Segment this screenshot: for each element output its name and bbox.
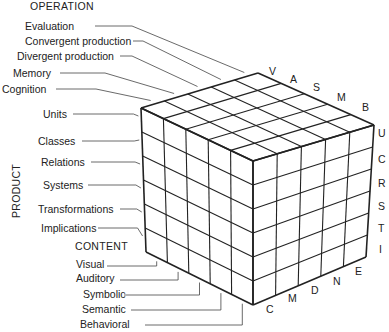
content-letter-m: M [288, 292, 297, 304]
product-letter-r: R [378, 177, 386, 189]
operation-label-memory: Memory [13, 67, 52, 79]
operation-letter-b: B [362, 101, 369, 113]
operation-label-evaluation: Evaluation [25, 20, 74, 32]
operation-letter-a: A [290, 73, 297, 85]
cube-figure: OPERATION Evaluation Convergent producti… [0, 0, 389, 332]
content-letter-e: E [355, 265, 362, 277]
cube [141, 73, 374, 305]
product-label-classes: Classes [38, 135, 75, 147]
product-letter-t: T [378, 222, 385, 234]
product-label-implications: Implications [41, 222, 96, 234]
content-letter-d: D [311, 284, 319, 296]
content-title: CONTENT [75, 240, 128, 252]
product-label-units: Units [43, 108, 67, 120]
operation-letter-m: M [337, 91, 346, 103]
product-letter-s: S [378, 200, 385, 212]
product-letter-c: C [378, 153, 386, 165]
content-letter-c: C [266, 303, 274, 315]
soi-cube-diagram: OPERATION Evaluation Convergent producti… [0, 0, 389, 332]
product-label-relations: Relations [41, 156, 85, 168]
product-label-systems: Systems [43, 179, 83, 191]
operation-label-divergent: Divergent production [17, 50, 114, 62]
content-label-symbolic: Symbolic [83, 288, 126, 300]
content-letter-n: N [333, 275, 341, 287]
product-letter-i: I [379, 243, 382, 255]
operation-letter-v: V [269, 65, 276, 77]
content-label-visual: Visual [76, 258, 104, 270]
operation-letter-s: S [313, 81, 320, 93]
product-title: PRODUCT [10, 164, 22, 218]
content-label-behavioral: Behavioral [80, 318, 130, 330]
operation-title: OPERATION [30, 0, 94, 12]
product-letter-u: U [378, 127, 386, 139]
content-label-semantic: Semantic [82, 303, 126, 315]
product-label-transformations: Transformations [38, 203, 113, 215]
operation-label-convergent: Convergent production [25, 35, 131, 47]
content-label-auditory: Auditory [76, 272, 115, 284]
operation-label-cognition: Cognition [2, 83, 47, 95]
